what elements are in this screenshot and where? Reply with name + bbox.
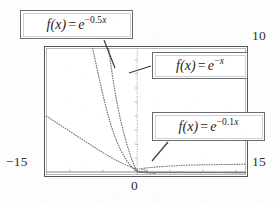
callout-2-exponent: −x — [214, 56, 224, 66]
callout-e-neg-0p5x: f(x)=e−0.5x — [20, 10, 133, 39]
callout-2-eq: = — [196, 58, 208, 73]
callout-2-expression: f(x)=e−x — [176, 59, 224, 73]
callout-1-expression: f(x)=e−0.5x — [46, 18, 106, 32]
callout-3-exp-num: 0.1 — [222, 117, 234, 127]
exponential-decay-figure: 10 −15 15 0 f(x)=e−0.5x f(x)=e−x f(x)=e−… — [0, 0, 278, 203]
callout-3-eq: = — [198, 119, 210, 134]
callout-3-exp-var: x — [234, 117, 238, 127]
callout-e-neg-x: f(x)=e−x — [152, 52, 248, 79]
y-axis-max-label: 10 — [252, 28, 266, 44]
callout-2-exp-var: x — [220, 56, 224, 66]
callout-e-neg-0p1x: f(x)=e−0.1x — [152, 112, 265, 141]
callout-1-eq: = — [66, 17, 78, 32]
x-axis-min-label: −15 — [6, 154, 28, 170]
callout-1-fn: f(x) — [46, 17, 66, 32]
callout-1-exp-num: 0.5 — [90, 15, 102, 25]
callout-1-exp-var: x — [102, 15, 106, 25]
callout-3-fn: f(x) — [178, 119, 198, 134]
callout-3-expression: f(x)=e−0.1x — [178, 120, 238, 134]
callout-1-exponent: −0.5x — [85, 15, 107, 25]
callout-3-exponent: −0.1x — [217, 117, 239, 127]
x-axis-zero-label: 0 — [131, 178, 138, 194]
x-axis-max-label: 15 — [252, 154, 266, 170]
callout-2-fn: f(x) — [176, 58, 196, 73]
